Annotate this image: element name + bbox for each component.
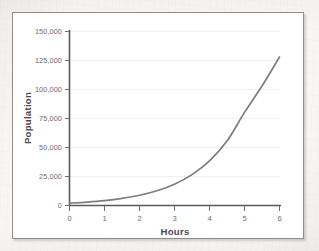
- y-axis-title: Population: [22, 92, 33, 144]
- y-tick-label-125000: 125,000: [35, 56, 62, 65]
- x-tick-label-5: 5: [242, 214, 246, 223]
- figure-frame: 150,000 125,000 100,000 75,000 50,000 25…: [12, 12, 304, 239]
- y-tick-label-50000: 50,000: [39, 143, 62, 152]
- population-growth-chart: 150,000 125,000 100,000 75,000 50,000 25…: [13, 13, 303, 238]
- x-tick-label-1: 1: [102, 214, 106, 223]
- y-tick-label-25000: 25,000: [39, 172, 62, 181]
- x-tick-label-4: 4: [207, 214, 211, 223]
- x-tick-label-6: 6: [277, 214, 281, 223]
- y-tick-label-0: 0: [58, 201, 62, 210]
- x-axis-title: Hours: [161, 226, 190, 237]
- y-tick-label-150000: 150,000: [35, 27, 62, 36]
- y-tick-label-75000: 75,000: [39, 114, 62, 123]
- x-tick-label-0: 0: [67, 214, 71, 223]
- screenshot-root: 150,000 125,000 100,000 75,000 50,000 25…: [0, 0, 319, 251]
- y-tick-label-100000: 100,000: [35, 85, 62, 94]
- plot-background: [13, 13, 303, 238]
- x-tick-label-2: 2: [137, 214, 141, 223]
- x-tick-label-3: 3: [172, 214, 176, 223]
